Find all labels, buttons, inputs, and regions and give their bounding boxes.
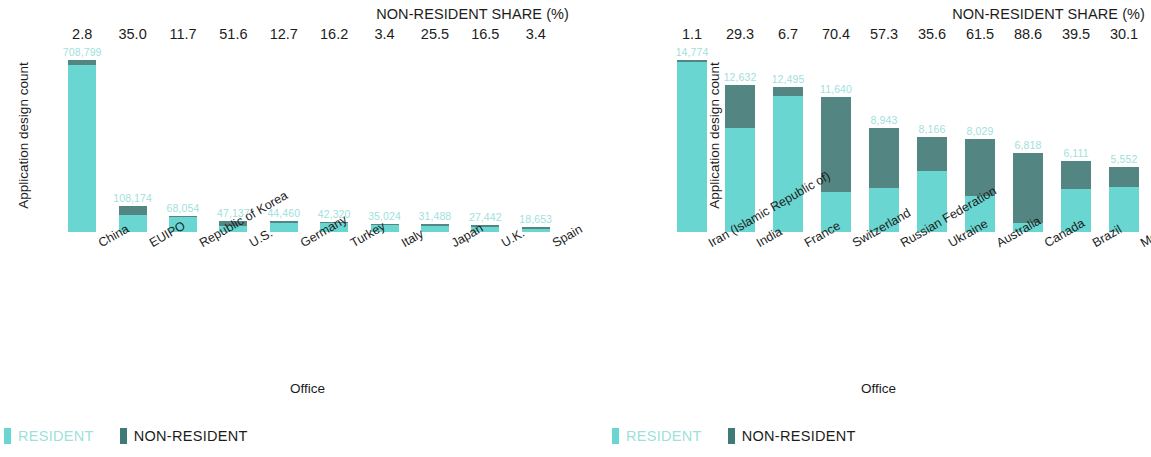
share-values-row-right: 1.129.36.770.457.335.661.588.639.530.1 [668,26,1148,46]
share-value: 16.5 [460,26,510,42]
legend-label-resident: RESIDENT [626,428,702,444]
bar-column[interactable]: 8,943 [860,60,908,232]
stacked-bar[interactable]: 12,632 [725,85,755,232]
legend-right: RESIDENT NON-RESIDENT [612,428,856,444]
legend-swatch-resident-icon [4,428,11,444]
bar-value-label: 11,640 [820,83,852,95]
x-tick-label: Ukraine [946,238,953,250]
legend-swatch-resident-icon [612,428,619,444]
legend-label-resident: RESIDENT [18,428,94,444]
share-axis-title-left: NON-RESIDENT SHARE (%) [376,6,569,22]
bar-segment-non-resident[interactable] [869,128,899,188]
bar-value-label: 6,818 [1015,139,1042,151]
legend-item-non-resident-left[interactable]: NON-RESIDENT [120,428,248,444]
bar-column[interactable]: 42,320 [309,60,359,232]
stacked-bar[interactable]: 11,640 [821,97,851,233]
legend-item-resident-right[interactable]: RESIDENT [612,428,702,444]
stacked-bar[interactable]: 31,488 [421,224,449,232]
y-axis-title-left: Application design count [16,31,31,241]
share-value: 2.8 [57,26,107,42]
bar-value-label: 108,174 [113,192,152,204]
x-tick-label: U.S. [247,238,254,250]
bar-segment-resident[interactable] [522,229,550,232]
bar-column[interactable]: 708,799 [57,60,107,232]
x-tick-label: Morocco [1138,238,1145,250]
share-values-row-left: 2.835.011.751.612.716.23.425.516.53.4 [57,26,561,46]
share-value: 51.6 [208,26,258,42]
bar-value-label: 68,054 [167,202,200,214]
bar-value-label: 8,166 [919,123,946,135]
bar-column[interactable]: 108,174 [107,60,157,232]
bar-column[interactable]: 6,818 [1004,60,1052,232]
share-value: 16.2 [309,26,359,42]
x-axis-title-left: Office [0,381,575,396]
bar-column[interactable]: 14,774 [668,60,716,232]
share-value: 57.3 [860,26,908,42]
x-tick-label: Republic of Korea [197,238,204,250]
legend-item-resident-left[interactable]: RESIDENT [4,428,94,444]
bar-column[interactable]: 18,653 [511,60,561,232]
bar-column[interactable]: 11,640 [812,60,860,232]
share-value: 6.7 [764,26,812,42]
bar-segment-non-resident[interactable] [917,137,947,171]
bar-segment-resident[interactable] [421,226,449,232]
bar-column[interactable]: 31,488 [410,60,460,232]
legend-label-non-resident: NON-RESIDENT [742,428,856,444]
bar-value-label: 708,799 [63,46,102,58]
bar-segment-non-resident[interactable] [119,206,147,215]
chart-panel-right: Application design count NON-RESIDENT SH… [576,0,1151,457]
bar-value-label: 14,774 [676,46,709,58]
bar-value-label: 18,653 [519,213,552,225]
x-tick-label: China [96,238,103,250]
bar-segment-non-resident[interactable] [725,85,755,128]
bar-segment-resident[interactable] [68,65,96,232]
bar-segment-non-resident[interactable] [773,87,803,97]
bar-segment-non-resident[interactable] [1061,161,1091,189]
bar-column[interactable]: 35,024 [359,60,409,232]
bar-column[interactable]: 8,166 [908,60,956,232]
x-tick-label: Switzerland [850,238,857,250]
share-value: 25.5 [410,26,460,42]
x-tick-label: Russian Federation [898,238,905,250]
legend-swatch-non-resident-icon [120,428,127,444]
legend-label-non-resident: NON-RESIDENT [134,428,248,444]
stacked-bar[interactable]: 708,799 [68,60,96,232]
bar-segment-resident[interactable] [270,223,298,232]
x-tick-label: Iran (Islamic Republic of) [706,238,713,250]
share-value: 39.5 [1052,26,1100,42]
bar-value-label: 35,024 [368,210,401,222]
x-tick-label: Brazil [1090,238,1097,250]
x-tick-label: Italy [399,238,406,250]
plot-area-right: 14,77412,63212,49511,6408,9438,1668,0296… [668,60,1148,232]
bar-value-label: 31,488 [419,210,452,222]
share-value: 35.0 [107,26,157,42]
stacked-bar[interactable]: 18,653 [522,227,550,232]
share-value: 70.4 [812,26,860,42]
bar-segment-non-resident[interactable] [1109,167,1139,186]
bar-column[interactable]: 6,111 [1052,60,1100,232]
bar-value-label: 27,442 [469,211,502,223]
legend-item-non-resident-right[interactable]: NON-RESIDENT [728,428,856,444]
bar-value-label: 8,943 [871,114,898,126]
bar-column[interactable]: 5,552 [1100,60,1148,232]
x-tick-label: Canada [1042,238,1049,250]
share-value: 88.6 [1004,26,1052,42]
stacked-bar[interactable]: 5,552 [1109,167,1139,232]
legend-left: RESIDENT NON-RESIDENT [4,428,248,444]
bar-column[interactable]: 68,054 [158,60,208,232]
chart-panel-left: Application design count NON-RESIDENT SH… [0,0,575,457]
bar-value-label: 12,495 [772,73,805,85]
share-value: 29.3 [716,26,764,42]
share-value: 12.7 [259,26,309,42]
bar-segment-non-resident[interactable] [1013,153,1043,223]
bar-column[interactable]: 12,632 [716,60,764,232]
bar-segment-resident[interactable] [677,62,707,232]
stacked-bar[interactable]: 14,774 [677,60,707,232]
share-axis-title-right: NON-RESIDENT SHARE (%) [952,6,1145,22]
x-axis-title-right: Office [576,381,1151,396]
stacked-bar[interactable]: 44,460 [270,221,298,232]
bar-column[interactable]: 27,442 [460,60,510,232]
share-value: 3.4 [511,26,561,42]
legend-swatch-non-resident-icon [728,428,735,444]
x-tick-label: France [802,238,809,250]
